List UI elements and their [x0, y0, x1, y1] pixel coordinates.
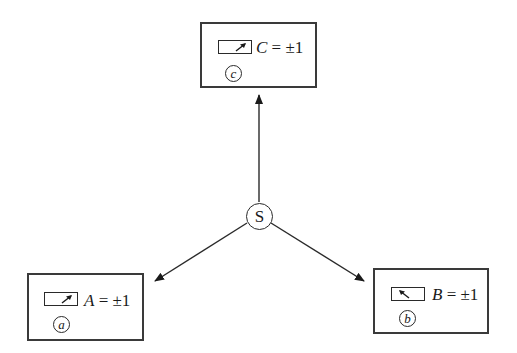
measurement-device-a: [44, 292, 78, 306]
source-node: S: [246, 203, 273, 230]
station-b-label: B = ±1: [432, 286, 478, 303]
station-c-box: C = ±1 c: [200, 22, 317, 88]
pointer-up-right-icon: [219, 41, 253, 55]
pointer-up-left-icon: [392, 288, 426, 302]
station-c-tag: c: [225, 65, 242, 82]
station-b-tag: b: [399, 310, 416, 327]
arrow-to-a: [155, 223, 247, 281]
measurement-device-b: [391, 287, 425, 301]
station-c-label: C = ±1: [256, 39, 303, 56]
measurement-device-c: [218, 40, 252, 54]
station-b-box: B = ±1 b: [373, 268, 489, 334]
station-a-label: A = ±1: [84, 292, 130, 309]
station-a-box: A = ±1 a: [27, 273, 144, 341]
pointer-up-right-icon: [45, 293, 79, 307]
arrow-to-b: [271, 223, 364, 281]
station-a-tag: a: [53, 316, 70, 333]
